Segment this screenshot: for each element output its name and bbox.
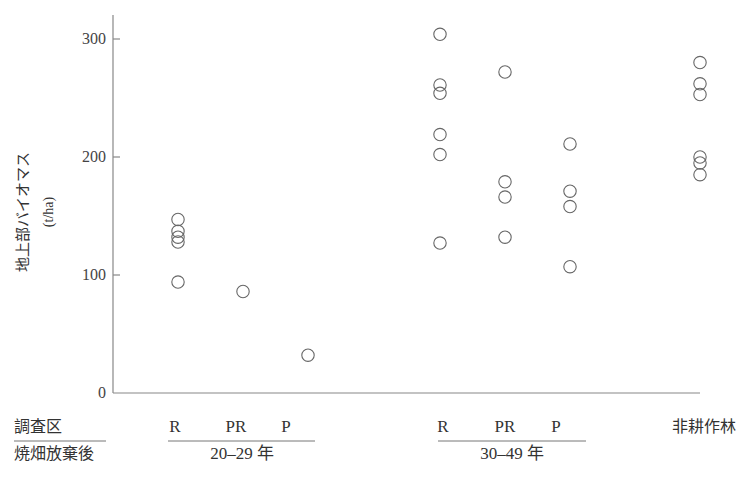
data-point [499,176,511,188]
data-point [564,261,576,273]
row-title-plot-type: 調査区 [14,417,62,436]
label-g3-forest: 非耕作林 [672,417,736,436]
ytick-300: 300 [82,30,106,47]
data-point [237,285,249,297]
label-g2-period: 30–49 年 [480,444,544,463]
y-axis-title: 地上部バイオマス [14,152,32,272]
category-labels: 調査区 焼畑放棄後 R PR P 20–29 年 R PR P 30–49 年 … [14,417,736,463]
y-axis-label: 地上部バイオマス (t/ha) [14,152,57,272]
label-g2-PR: PR [495,417,516,436]
data-point [172,276,184,288]
data-point [499,66,511,78]
data-point [434,28,446,40]
label-g1-period: 20–29 年 [210,444,274,463]
ytick-100: 100 [82,266,106,283]
data-point [564,200,576,212]
label-g2-R: R [437,417,449,436]
data-point [499,231,511,243]
label-g2-P: P [551,417,560,436]
y-ticks: 300 200 100 0 [82,30,120,401]
ytick-0: 0 [98,384,106,401]
label-g1-PR: PR [226,417,247,436]
ytick-200: 200 [82,148,106,165]
data-point [302,349,314,361]
row-title-years: 焼畑放棄後 [14,444,94,463]
y-axis-unit: (t/ha) [41,197,57,228]
data-point [434,148,446,160]
scatter-chart: 300 200 100 0 地上部バイオマス (t/ha) 調査区 焼畑放棄後 … [0,0,751,482]
data-point [564,138,576,150]
data-point [694,169,706,181]
data-point [434,237,446,249]
data-point [434,87,446,99]
data-point [172,213,184,225]
label-g1-R: R [169,417,181,436]
data-points [172,28,706,361]
data-point [564,185,576,197]
data-point [694,56,706,68]
data-point [434,128,446,140]
label-g1-P: P [281,417,290,436]
data-point [499,191,511,203]
